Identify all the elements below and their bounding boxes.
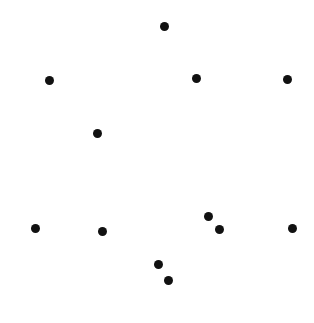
dot-7	[98, 227, 107, 236]
dot-3	[192, 74, 201, 83]
dot-5	[93, 129, 102, 138]
dot-11	[154, 260, 163, 269]
dot-8	[204, 212, 213, 221]
dot-canvas	[0, 0, 314, 323]
dot-12	[164, 276, 173, 285]
dot-2	[45, 76, 54, 85]
dot-1	[160, 22, 169, 31]
dot-4	[283, 75, 292, 84]
dot-10	[288, 224, 297, 233]
dot-6	[31, 224, 40, 233]
dot-9	[215, 225, 224, 234]
